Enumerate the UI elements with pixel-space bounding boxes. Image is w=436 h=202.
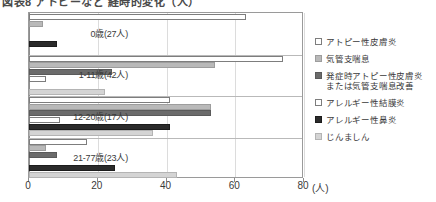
- legend-swatch-icon-4: [315, 116, 322, 123]
- legend-label-3: アレルギー性結膜炎: [326, 98, 405, 108]
- x-tick-label-40: 40: [160, 180, 171, 191]
- legend-swatch-icon-0: [315, 38, 322, 45]
- legend-item-5[interactable]: じんましん: [315, 132, 435, 142]
- gridline-60: [235, 13, 236, 177]
- legend-item-3[interactable]: アレルギー性結膜炎: [315, 98, 435, 108]
- bar-3-0: [29, 139, 87, 145]
- legend-label-1: 気管支喘息: [326, 54, 370, 64]
- legend-label-5: じんましん: [326, 132, 370, 142]
- legend-swatch-icon-3: [315, 99, 322, 106]
- bar-0-4: [29, 41, 57, 47]
- bar-1-3: [29, 76, 46, 82]
- bar-3-5: [29, 172, 177, 178]
- bar-2-4: [29, 124, 170, 130]
- bar-3-1: [29, 145, 46, 151]
- legend-item-1[interactable]: 気管支喘息: [315, 54, 435, 64]
- x-tick-label-60: 60: [229, 180, 240, 191]
- gridline-40: [167, 13, 168, 177]
- bar-3-4: [29, 165, 115, 171]
- plot-area: [28, 12, 303, 178]
- bar-0-0: [29, 14, 246, 20]
- legend-item-2[interactable]: 発症時アトピー性皮膚炎 または気管支喘息改善: [315, 71, 435, 91]
- figure-title-strip: 図表8 アトピーなど 経時的変化（人）: [0, 0, 436, 9]
- legend-item-0[interactable]: アトピー性皮膚炎: [315, 37, 435, 47]
- category-label-2: 12-20歳(17人): [73, 110, 128, 123]
- legend-label-0: アトピー性皮膚炎: [326, 37, 396, 47]
- x-axis-unit-label: (人): [312, 180, 329, 195]
- legend-item-4[interactable]: アレルギー性鼻炎: [315, 115, 435, 125]
- legend: アトピー性皮膚炎気管支喘息発症時アトピー性皮膚炎 または気管支喘息改善アレルギー…: [315, 37, 435, 149]
- x-tick-label-20: 20: [91, 180, 102, 191]
- category-label-0: 0歳(27人): [90, 27, 128, 40]
- legend-swatch-icon-1: [315, 55, 322, 62]
- category-label-1: 1-11歳(42人): [79, 68, 128, 81]
- bar-1-5: [29, 89, 105, 95]
- legend-swatch-icon-5: [315, 133, 322, 140]
- gridline-80: [304, 13, 305, 177]
- category-label-3: 21-77歳(23人): [73, 151, 128, 164]
- bar-2-0: [29, 97, 170, 103]
- bar-1-0: [29, 56, 283, 62]
- legend-swatch-icon-2: [315, 72, 322, 79]
- bar-0-1: [29, 21, 43, 27]
- x-tick-label-80: 80: [297, 180, 308, 191]
- page-title: 図表8 アトピーなど 経時的変化（人）: [2, 0, 200, 9]
- x-tick-label-0: 0: [25, 180, 31, 191]
- bar-3-2: [29, 152, 57, 158]
- bar-2-3: [29, 117, 60, 123]
- legend-label-4: アレルギー性鼻炎: [326, 115, 396, 125]
- legend-label-2: 発症時アトピー性皮膚炎 または気管支喘息改善: [326, 71, 423, 91]
- chart-figure: 図表8 アトピーなど 経時的変化（人） 0歳(27人)1-11歳(42人)12-…: [0, 0, 436, 202]
- bar-2-5: [29, 130, 153, 136]
